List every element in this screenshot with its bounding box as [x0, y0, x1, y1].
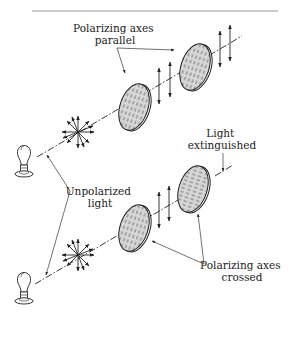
polarizer-1-vertical	[113, 201, 156, 256]
unpolarized-rays-icon	[62, 239, 94, 271]
polarizer-2-vertical	[174, 40, 217, 95]
label-parallel: Polarizing axes parallel	[73, 22, 157, 46]
setup-parallel: Polarizing axes parallel	[15, 22, 242, 177]
label-crossed: Polarizing axes crossed	[200, 259, 284, 283]
polarization-diagram: Polarizing axes parallel Light extinguis…	[0, 0, 290, 337]
polarizer-2-horizontal	[172, 162, 215, 217]
beam-bottom	[35, 193, 190, 284]
leader-parallel-2	[117, 48, 174, 50]
light-bulb-icon	[15, 146, 33, 178]
leader-parallel-1	[117, 48, 125, 73]
light-bulb-icon	[15, 273, 33, 305]
leader-crossed-2	[198, 214, 204, 264]
label-extinguished: Light extinguished	[188, 127, 257, 151]
beam-extinguished	[215, 165, 233, 176]
label-unpolarized: Unpolarized light	[66, 185, 134, 209]
setup-crossed: Light extinguished Polarizing axes cross…	[15, 127, 284, 304]
leader-unpolarized-bottom	[46, 191, 70, 275]
polarizer-1-vertical	[113, 80, 156, 135]
leader-crossed-1	[152, 241, 204, 264]
leader-unpolarized-top	[47, 155, 70, 191]
unpolarized-rays-icon	[62, 116, 94, 148]
